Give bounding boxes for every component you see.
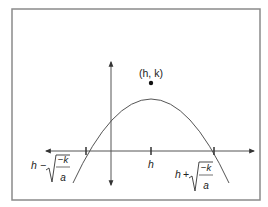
vertex-label: (h, k) <box>139 67 163 79</box>
right-root-operator: + <box>183 168 189 180</box>
parabola-diagram: (h, k) h h − −k a h + −k a <box>0 0 268 207</box>
left-root-operator: − <box>40 159 46 171</box>
left-root-prefix: h <box>31 159 37 171</box>
left-root-denominator: a <box>60 172 66 183</box>
right-root-prefix: h <box>175 168 181 180</box>
left-root-numerator: −k <box>58 154 70 165</box>
diagram-frame <box>12 9 260 200</box>
right-root-numerator: −k <box>201 162 213 173</box>
right-root-denominator: a <box>203 180 209 191</box>
h-tick-label: h <box>148 158 154 170</box>
vertex-point <box>149 81 153 85</box>
